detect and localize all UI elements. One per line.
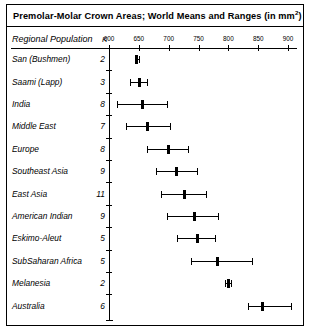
- range-end-cap: [177, 235, 178, 242]
- mean-marker: [261, 302, 264, 311]
- mean-marker: [193, 212, 196, 221]
- range-end-cap: [170, 123, 171, 130]
- mean-marker: [138, 78, 141, 87]
- row-separator-tick: [106, 294, 112, 295]
- range-end-cap: [248, 303, 249, 310]
- range-end-cap: [167, 101, 168, 108]
- range-end-cap: [167, 213, 168, 220]
- mean-marker: [135, 55, 138, 64]
- row-separator-tick: [106, 70, 112, 71]
- mean-marker: [175, 167, 178, 176]
- range-end-cap: [191, 258, 192, 265]
- x-axis-tick-label: 600: [104, 35, 115, 42]
- range-line: [248, 306, 291, 307]
- range-end-cap: [147, 79, 148, 86]
- row-k-value: 8: [95, 144, 105, 154]
- mean-marker: [167, 145, 170, 154]
- row-label: Eskimo-Aleut: [12, 233, 61, 243]
- x-axis-tick: [228, 45, 229, 51]
- row-label: American Indian: [12, 211, 73, 221]
- range-end-cap: [206, 191, 207, 198]
- row-label: San (Bushmen): [12, 54, 70, 64]
- range-end-cap: [161, 191, 162, 198]
- row-k-value: 5: [95, 256, 105, 266]
- row-label: Melanesia: [12, 278, 50, 288]
- row-k-value: 8: [95, 99, 105, 109]
- row-label: SubSaharan Africa: [12, 256, 82, 266]
- category-axis-foot: [106, 320, 113, 321]
- row-label: East Asia: [12, 189, 47, 199]
- range-end-cap: [215, 235, 216, 242]
- row-separator-tick: [106, 93, 112, 94]
- range-line: [191, 261, 252, 262]
- row-separator-tick: [106, 227, 112, 228]
- range-end-cap: [231, 280, 232, 287]
- range-end-cap: [188, 146, 189, 153]
- range-end-cap: [117, 101, 118, 108]
- row-separator-tick: [106, 160, 112, 161]
- plot-area: 600650700750800850900 San (Bushmen)2Saam…: [7, 5, 303, 325]
- row-k-value: 11: [95, 189, 105, 199]
- row-separator-tick: [106, 182, 112, 183]
- row-k-value: 7: [95, 121, 105, 131]
- category-axis-line: [109, 48, 110, 321]
- x-axis-tick: [109, 45, 110, 51]
- row-k-value: 9: [95, 211, 105, 221]
- row-k-value: 3: [95, 77, 105, 87]
- row-label: Saami (Lapp): [12, 77, 62, 87]
- x-axis-tick: [288, 45, 289, 51]
- mean-marker: [141, 100, 144, 109]
- range-end-cap: [130, 79, 131, 86]
- mean-marker: [216, 257, 219, 266]
- row-separator-tick: [106, 205, 112, 206]
- range-end-cap: [291, 303, 292, 310]
- mean-marker: [227, 279, 230, 288]
- row-label: Middle East: [12, 121, 56, 131]
- range-end-cap: [197, 168, 198, 175]
- x-axis-tick: [258, 45, 259, 51]
- value-axis-line: [109, 48, 297, 49]
- x-axis-tick: [169, 45, 170, 51]
- x-axis-tick-label: 850: [253, 35, 264, 42]
- x-axis-tick-label: 900: [283, 35, 294, 42]
- range-end-cap: [126, 123, 127, 130]
- x-axis-tick: [199, 45, 200, 51]
- x-axis-tick-label: 650: [134, 35, 145, 42]
- range-end-cap: [252, 258, 253, 265]
- mean-marker: [196, 234, 199, 243]
- range-end-cap: [218, 213, 219, 220]
- range-end-cap: [156, 168, 157, 175]
- row-label: India: [12, 99, 30, 109]
- mean-marker: [183, 190, 186, 199]
- row-separator-tick: [106, 115, 112, 116]
- range-end-cap: [139, 56, 140, 63]
- range-end-cap: [225, 280, 226, 287]
- x-axis-tick-label: 800: [223, 35, 234, 42]
- row-separator-tick: [106, 138, 112, 139]
- x-axis-tick: [139, 45, 140, 51]
- row-k-value: 9: [95, 166, 105, 176]
- row-label: Europe: [12, 144, 39, 154]
- row-k-value: 2: [95, 54, 105, 64]
- x-axis-tick-label: 700: [163, 35, 174, 42]
- row-label: Australia: [12, 301, 45, 311]
- range-end-cap: [147, 146, 148, 153]
- row-separator-tick: [106, 250, 112, 251]
- row-k-value: 6: [95, 301, 105, 311]
- row-separator-tick: [106, 272, 112, 273]
- figure-panel: Premolar-Molar Crown Areas; World Means …: [6, 4, 304, 326]
- x-axis-tick-label: 750: [193, 35, 204, 42]
- mean-marker: [146, 122, 149, 131]
- row-k-value: 2: [95, 278, 105, 288]
- row-label: Southeast Asia: [12, 166, 68, 176]
- row-k-value: 5: [95, 233, 105, 243]
